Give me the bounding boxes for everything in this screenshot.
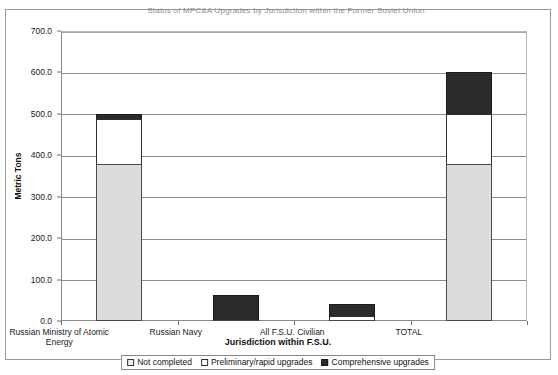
segment-not-completed[interactable] bbox=[446, 164, 492, 321]
legend-swatch-comprehensive-icon bbox=[322, 359, 329, 366]
legend-item[interactable]: Comprehensive upgrades bbox=[322, 357, 429, 367]
y-tick-label: 700.0 bbox=[31, 26, 52, 36]
x-tick-mark bbox=[178, 321, 179, 325]
stacked-bar[interactable] bbox=[329, 304, 375, 321]
legend-label: Preliminary/rapid upgrades bbox=[211, 357, 313, 367]
x-tick-label: TOTAL bbox=[349, 327, 469, 337]
segment-preliminary-rapid-upgrades[interactable] bbox=[96, 119, 142, 164]
bars-layer bbox=[61, 31, 527, 321]
x-tick-label: Russian Navy bbox=[116, 327, 236, 337]
x-tick-label-line: Russian Ministry of Atomic bbox=[0, 327, 119, 337]
legend-label: Not completed bbox=[137, 357, 192, 367]
legend-item[interactable]: Not completed bbox=[127, 357, 192, 367]
y-axis-title: Metric Tons bbox=[13, 116, 23, 236]
stacked-bar[interactable] bbox=[96, 114, 142, 321]
stacked-bar[interactable] bbox=[446, 72, 492, 321]
chart-legend: Not completedPreliminary/rapid upgradesC… bbox=[121, 355, 435, 370]
y-tick-label: 300.0 bbox=[31, 192, 52, 202]
legend-swatch-preliminary-icon bbox=[201, 359, 208, 366]
chart-frame: Status of MPC&A Upgrades by Jurisdiction… bbox=[5, 9, 551, 360]
x-tick-label: All F.S.U. Civilian bbox=[232, 327, 352, 337]
x-tick-mark bbox=[294, 321, 295, 325]
chart-title: Status of MPC&A Upgrades by Jurisdiction… bbox=[66, 6, 506, 15]
y-tick-label: 400.0 bbox=[31, 150, 52, 160]
legend-label: Comprehensive upgrades bbox=[332, 357, 429, 367]
y-tick-label: 200.0 bbox=[31, 233, 52, 243]
x-tick-mark bbox=[61, 321, 62, 325]
segment-not-completed[interactable] bbox=[96, 164, 142, 321]
x-axis-title: Jurisdiction within F.S.U. bbox=[6, 337, 550, 347]
stacked-bar[interactable] bbox=[213, 295, 259, 321]
y-axis: Metric Tons 0.0100.0200.0300.0400.0500.0… bbox=[6, 31, 61, 321]
segment-comprehensive-upgrades[interactable] bbox=[213, 295, 259, 321]
bar-group[interactable] bbox=[178, 31, 295, 321]
segment-comprehensive-upgrades[interactable] bbox=[446, 72, 492, 113]
legend-item[interactable]: Preliminary/rapid upgrades bbox=[201, 357, 313, 367]
segment-comprehensive-upgrades[interactable] bbox=[329, 304, 375, 316]
x-tick-label-line: All F.S.U. Civilian bbox=[232, 327, 352, 337]
y-tick-label: 0.0 bbox=[40, 316, 52, 326]
bar-group[interactable] bbox=[411, 31, 528, 321]
x-tick-label-line: Russian Navy bbox=[116, 327, 236, 337]
y-tick-label: 600.0 bbox=[31, 67, 52, 77]
legend-swatch-notcompleted-icon bbox=[127, 359, 134, 366]
x-tick-mark bbox=[411, 321, 412, 325]
segment-preliminary-rapid-upgrades[interactable] bbox=[446, 114, 492, 164]
bar-group[interactable] bbox=[294, 31, 411, 321]
x-tick-mark bbox=[527, 321, 528, 325]
y-tick-label: 100.0 bbox=[31, 275, 52, 285]
bar-group[interactable] bbox=[61, 31, 178, 321]
x-tick-label-line: TOTAL bbox=[349, 327, 469, 337]
y-tick-label: 500.0 bbox=[31, 109, 52, 119]
